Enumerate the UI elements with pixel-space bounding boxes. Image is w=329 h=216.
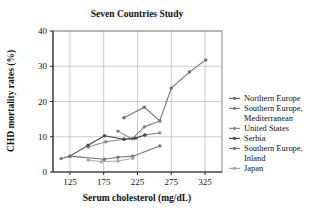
legend-item-label[interactable]: Northern Europe (244, 94, 301, 103)
y-tick-label: 10 (38, 132, 48, 142)
data-point-marker (122, 116, 125, 119)
y-axis-label: CHD mortality rates (%) (6, 50, 17, 152)
legend-marker-dot (233, 127, 236, 130)
x-tick-label: 275 (165, 177, 179, 187)
legend-marker-dot (233, 107, 236, 110)
series-line (70, 135, 145, 156)
data-point-marker (86, 144, 89, 147)
legend-item-label-continued[interactable]: Mediterranean (244, 114, 294, 123)
data-point-marker (158, 119, 161, 122)
data-point-marker (116, 159, 119, 162)
data-point-marker (143, 105, 146, 108)
legend-marker-dot (233, 97, 236, 100)
x-tick-label: 325 (198, 177, 212, 187)
x-tick-label: 175 (97, 177, 111, 187)
legend-item-label[interactable]: Southern Europe, (244, 104, 303, 113)
data-point-marker (204, 58, 207, 61)
data-point-marker (170, 86, 173, 89)
data-point-marker (116, 129, 119, 132)
data-point-marker (68, 154, 71, 157)
legend-item-label[interactable]: Serbia (244, 134, 266, 143)
data-series-group (59, 58, 207, 163)
legend-item-label[interactable]: United States (244, 124, 289, 133)
chart-legend: Northern EuropeSouthern Europe,Mediterra… (229, 94, 303, 173)
data-point-marker (131, 157, 134, 160)
legend-item-label[interactable]: Southern Europe, (244, 144, 303, 153)
y-tick-label: 30 (38, 61, 48, 71)
data-point-marker (59, 157, 62, 160)
legend-item-label-continued[interactable]: Inland (244, 154, 266, 163)
chart-title: Seven Countries Study (91, 9, 184, 19)
legend-marker-dot (233, 147, 236, 150)
data-point-marker (143, 125, 146, 128)
data-point-marker (143, 133, 146, 136)
x-axis-ticks: 125175225275325 (63, 172, 212, 187)
x-tick-label: 225 (131, 177, 145, 187)
data-point-marker (188, 70, 191, 73)
y-tick-label: 20 (38, 97, 48, 107)
series-line (118, 121, 160, 139)
data-point-marker (103, 134, 106, 137)
y-tick-label: 40 (38, 26, 48, 36)
y-tick-label: 0 (43, 167, 48, 177)
data-point-marker (122, 138, 125, 141)
y-axis-ticks: 010203040 (38, 26, 53, 177)
seven-countries-study-chart: Seven Countries Study 010203040 12517522… (0, 0, 329, 216)
data-point-marker (158, 131, 161, 134)
data-series (122, 58, 207, 122)
legend-item-label[interactable]: Japan (244, 164, 264, 173)
data-point-marker (134, 136, 137, 139)
series-line (124, 60, 206, 121)
x-tick-label: 125 (63, 177, 77, 187)
data-point-marker (100, 160, 103, 163)
data-point-marker (103, 158, 106, 161)
data-point-marker (116, 155, 119, 158)
data-point-marker (158, 144, 161, 147)
x-axis-label: Serum cholesterol (mg/dL) (83, 193, 192, 204)
data-series (86, 157, 134, 164)
legend-marker-dot (233, 167, 236, 170)
data-point-marker (86, 158, 89, 161)
legend-marker-dot (233, 137, 236, 140)
data-point-marker (104, 140, 107, 143)
chart-figure: Seven Countries Study 010203040 12517522… (0, 0, 329, 216)
